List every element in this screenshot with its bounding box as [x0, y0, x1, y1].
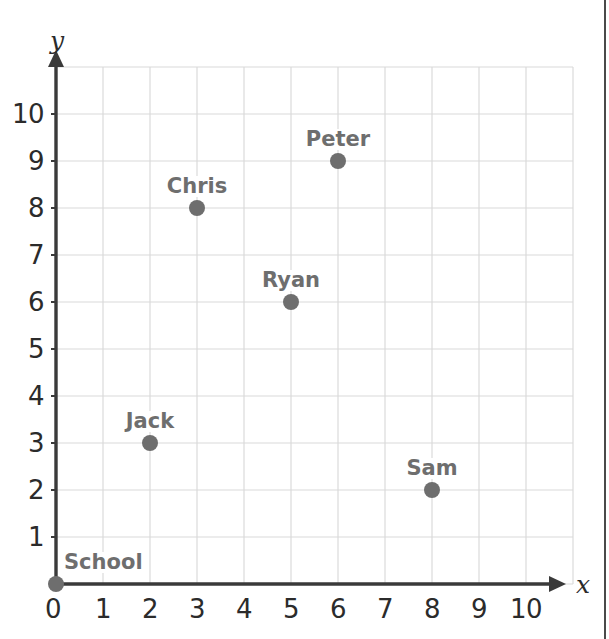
data-point-label: Chris [165, 176, 229, 197]
x-tick-label: 7 [377, 596, 393, 622]
x-tick-label: 6 [330, 596, 346, 622]
x-tick-label: 9 [471, 596, 487, 622]
x-tick-label: 0 [45, 596, 61, 622]
x-tick-label: 5 [283, 596, 299, 622]
y-tick-label: 10 [12, 101, 44, 127]
x-tick-label: 10 [510, 596, 542, 622]
x-tick-label: 1 [95, 596, 111, 622]
x-tick-label: 2 [142, 596, 158, 622]
y-axis-label: y [50, 28, 64, 53]
y-tick-label: 8 [28, 195, 44, 221]
data-point-label: Jack [124, 411, 176, 432]
x-tick-label: 4 [236, 596, 252, 622]
x-tick-label: 3 [189, 596, 205, 622]
x-axis-label: x [576, 572, 590, 597]
data-point-dot[interactable] [424, 482, 440, 498]
data-point-label: School [62, 552, 145, 573]
x-tick-label: 8 [424, 596, 440, 622]
y-tick-label: 4 [28, 383, 44, 409]
data-point-dot[interactable] [142, 435, 158, 451]
data-point-label: Peter [304, 129, 372, 150]
y-tick-label: 3 [28, 430, 44, 456]
y-tick-label: 1 [28, 524, 44, 550]
y-tick-label: 5 [28, 336, 44, 362]
y-tick-label: 2 [28, 477, 44, 503]
data-point-label: Ryan [260, 270, 322, 291]
data-point-dot[interactable] [189, 200, 205, 216]
coordinate-plane-figure: 01234567891012345678910 SchoolJackChrisR… [0, 0, 609, 639]
y-tick-label: 7 [28, 242, 44, 268]
y-tick-label: 6 [28, 289, 44, 315]
data-point-dot[interactable] [330, 153, 346, 169]
data-point-label: Sam [404, 458, 459, 479]
data-point-dot[interactable] [283, 294, 299, 310]
data-point-dot[interactable] [48, 576, 64, 592]
y-tick-label: 9 [28, 148, 44, 174]
x-axis-arrowhead [549, 576, 566, 592]
plot-canvas [0, 0, 609, 639]
